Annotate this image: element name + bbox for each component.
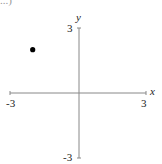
coordinate-plane [0,0,162,164]
x-min-tick-label: -3 [6,98,15,109]
data-point [30,47,35,52]
x-axis-label: x [150,86,155,97]
y-max-tick-label: 3 [67,23,73,34]
x-max-tick-label: 3 [141,98,147,109]
y-axis-label: y [76,12,81,23]
y-min-tick-label: -3 [63,152,72,163]
